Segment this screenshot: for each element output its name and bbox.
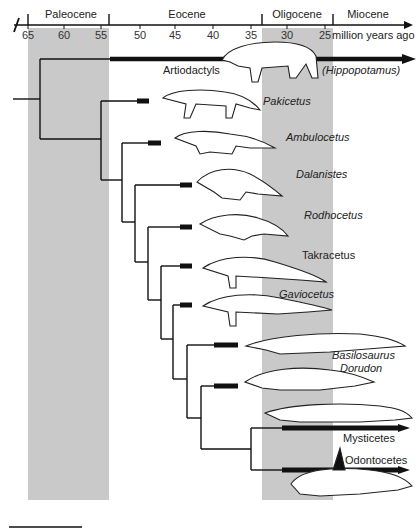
tick-label: 60 — [58, 30, 70, 41]
ambulocetus-icon — [175, 131, 275, 154]
label-basilosaurus: Basilosaurus — [332, 350, 395, 361]
tick-label: 35 — [245, 30, 257, 41]
label-artiodactyls: Artiodactyls — [163, 65, 220, 76]
phylogeny-diagram — [0, 0, 418, 529]
label-odontocetes: Odontocetes — [345, 455, 407, 466]
tick-label: 50 — [134, 30, 146, 41]
period-eocene: Eocene — [168, 9, 205, 20]
tick-label: 25 — [319, 30, 331, 41]
orca-icon — [291, 469, 412, 496]
tick-label: 40 — [207, 30, 219, 41]
label-gaviocetus: Gaviocetus — [279, 289, 334, 300]
label-pakicetus: Pakicetus — [263, 96, 311, 107]
label-dalanistes: Dalanistes — [296, 169, 347, 180]
label-dorudon: Dorudon — [340, 363, 382, 374]
tick-label: 30 — [281, 30, 293, 41]
tick-label: 55 — [95, 30, 107, 41]
label-rodhocetus: Rodhocetus — [304, 210, 363, 221]
tick-label: 65 — [22, 30, 34, 41]
axis-unit-label: million years ago — [332, 30, 415, 41]
orca-dorsal-fin-icon — [333, 448, 345, 470]
period-oligocene: Oligocene — [272, 9, 322, 20]
label-hippopotamus: (Hippopotamus) — [322, 65, 400, 76]
label-takracetus: Takracetus — [302, 250, 355, 261]
label-ambulocetus: Ambulocetus — [286, 132, 350, 143]
period-paleocene: Paleocene — [45, 9, 97, 20]
pakicetus-icon — [163, 90, 260, 118]
period-miocene: Miocene — [347, 9, 389, 20]
tick-label: 45 — [169, 30, 181, 41]
label-mysticetes: Mysticetes — [343, 433, 395, 444]
